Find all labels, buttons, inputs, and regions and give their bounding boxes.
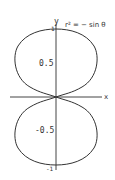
tick-label-neg-0-5: -0.5 (35, 127, 54, 135)
tick-label-neg-1: -1 (46, 166, 53, 172)
tick-label-1: 1 (51, 26, 55, 32)
equation-label: r² = − sin θ (65, 22, 106, 29)
tick-label-0-5: 0.5 (39, 60, 53, 68)
x-axis-label: x (104, 94, 108, 101)
